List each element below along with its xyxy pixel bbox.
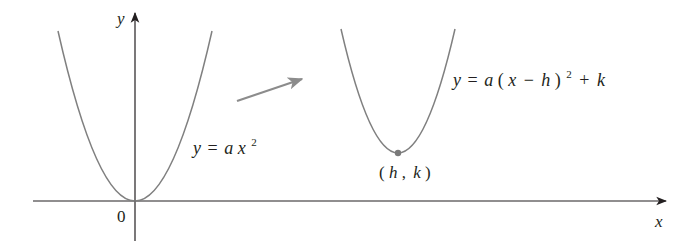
parabola-shift-diagram: y x 0 y = a x 2 y = a ( x − h ) 2 + k ( … — [0, 0, 692, 244]
origin-label: 0 — [117, 207, 126, 226]
vertex-label: ( h , k ) — [379, 163, 431, 182]
vertex-point — [395, 150, 401, 156]
x-axis-label: x — [654, 212, 663, 231]
shift-arrow — [237, 79, 302, 101]
shifted-parabola-curve — [341, 29, 455, 153]
shifted-equation-label: y = a ( x − h ) 2 + k — [451, 62, 606, 91]
base-equation-label: y = a x 2 — [191, 136, 257, 158]
y-axis-label: y — [115, 9, 125, 28]
